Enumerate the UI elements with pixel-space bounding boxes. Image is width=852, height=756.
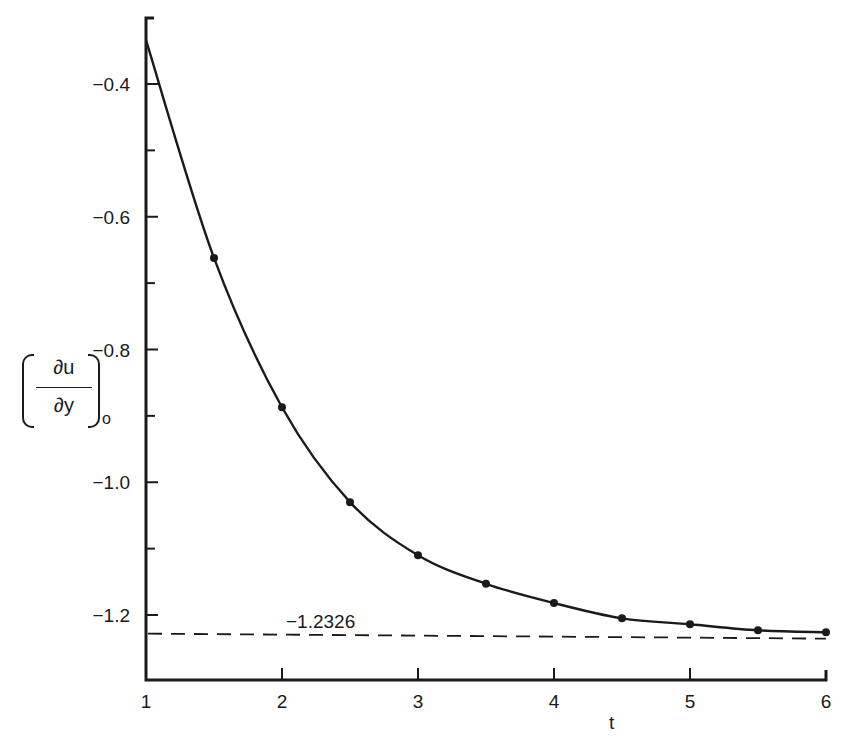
data-point-marker bbox=[822, 628, 830, 636]
data-point-marker bbox=[346, 498, 354, 506]
x-tick-label: 1 bbox=[141, 691, 152, 712]
data-point-markers bbox=[210, 254, 830, 636]
y-tick-label: −1.0 bbox=[92, 472, 130, 493]
data-curve bbox=[146, 40, 826, 632]
asymptote-value-label: −1.2326 bbox=[286, 611, 355, 632]
right-paren bbox=[88, 354, 100, 428]
fraction-bar bbox=[36, 387, 92, 388]
y-axis-title-subscript: o bbox=[102, 410, 111, 428]
x-axis-ticks: 123456 bbox=[141, 668, 832, 712]
data-point-marker bbox=[618, 614, 626, 622]
x-tick-label: 4 bbox=[549, 691, 560, 712]
data-point-marker bbox=[686, 620, 694, 628]
data-point-marker bbox=[482, 580, 490, 588]
y-tick-label: −1.2 bbox=[92, 605, 130, 626]
x-axis-title: t bbox=[609, 712, 615, 733]
asymptote-dashed-line bbox=[148, 634, 826, 639]
x-tick-label: 3 bbox=[413, 691, 424, 712]
y-axis-title-denominator: ∂y bbox=[38, 394, 90, 417]
x-tick-label: 6 bbox=[821, 691, 832, 712]
left-paren bbox=[22, 354, 34, 428]
y-tick-label: −0.6 bbox=[92, 207, 130, 228]
y-tick-label: −0.4 bbox=[92, 74, 130, 95]
y-axis-ticks: −0.4−0.6−0.8−1.0−1.2 bbox=[92, 74, 158, 626]
y-axis-title-numerator: ∂u bbox=[38, 356, 90, 379]
data-point-marker bbox=[754, 626, 762, 634]
x-tick-label: 5 bbox=[685, 691, 696, 712]
data-point-marker bbox=[550, 599, 558, 607]
data-point-marker bbox=[210, 254, 218, 262]
data-point-marker bbox=[278, 403, 286, 411]
y-axis-title: ∂u ∂y o bbox=[22, 354, 132, 434]
x-tick-label: 2 bbox=[277, 691, 288, 712]
data-point-marker bbox=[414, 551, 422, 559]
